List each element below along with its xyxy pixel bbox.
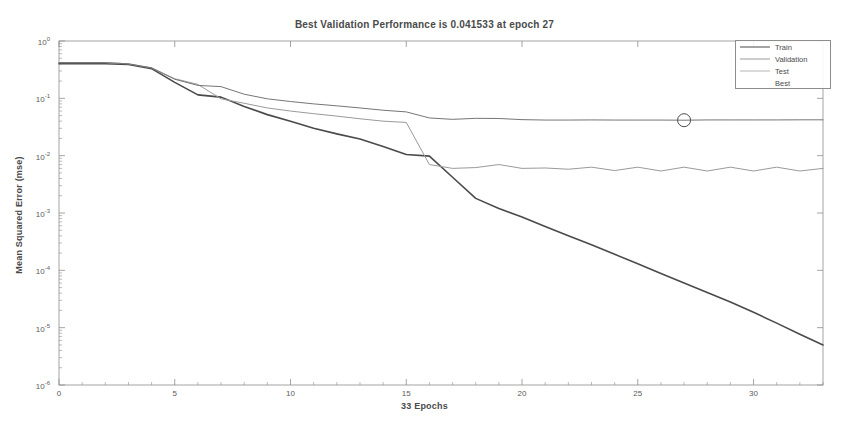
legend: TrainValidationTestBest (735, 40, 831, 89)
legend-swatch-test-icon (740, 68, 770, 74)
y-tick-label: 10-5 (22, 323, 50, 334)
x-tick-label: 30 (739, 390, 769, 398)
legend-label: Train (775, 43, 792, 52)
legend-swatch-validation-icon (740, 56, 770, 62)
y-tick-label: 10-4 (22, 265, 50, 276)
legend-label: Best (775, 79, 790, 88)
legend-swatch-best-icon (740, 80, 770, 86)
legend-label: Validation (775, 55, 807, 64)
legend-item-test[interactable]: Test (736, 65, 830, 77)
x-tick-label: 25 (623, 390, 653, 398)
legend-item-train[interactable]: Train (736, 41, 830, 53)
x-axis-label: 33 Epochs (0, 401, 849, 411)
x-tick-label: 20 (507, 390, 537, 398)
y-tick-label: 100 (22, 36, 50, 47)
plot-canvas (0, 0, 849, 425)
series-line-train (59, 64, 823, 345)
performance-plot-figure: Best Validation Performance is 0.041533 … (0, 0, 849, 425)
x-tick-label: 10 (276, 390, 306, 398)
legend-item-best[interactable]: Best (736, 77, 830, 89)
y-tick-label: 10-2 (22, 151, 50, 162)
y-tick-label: 10-3 (22, 208, 50, 219)
x-tick-label: 15 (391, 390, 421, 398)
axes-frame (59, 41, 823, 385)
legend-item-validation[interactable]: Validation (736, 53, 830, 65)
legend-label: Test (775, 67, 789, 76)
series-line-test (59, 63, 823, 121)
x-tick-label: 0 (44, 390, 74, 398)
page-title: Best Validation Performance is 0.041533 … (0, 19, 849, 30)
y-tick-label: 10-1 (22, 93, 50, 104)
x-tick-label: 5 (160, 390, 190, 398)
legend-swatch-train-icon (740, 44, 770, 50)
